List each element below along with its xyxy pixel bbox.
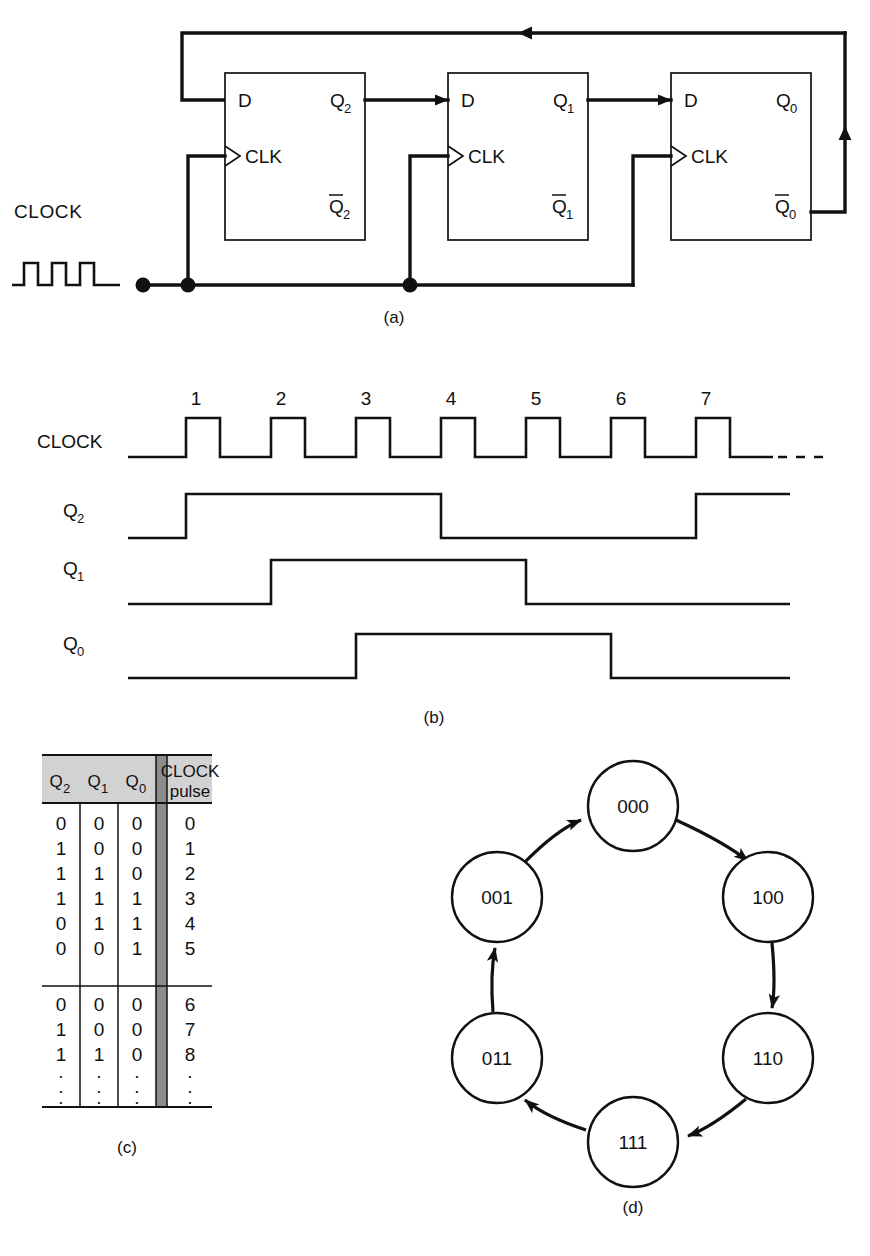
transition-110-to-111 (688, 1099, 746, 1136)
state-label-001: 001 (481, 887, 513, 908)
state-label-110: 110 (753, 1048, 783, 1069)
table-column-separator (156, 755, 167, 1107)
ff3-q-sub: 0 (790, 101, 797, 116)
table-header-q0: Q (125, 772, 138, 791)
timing-label-q2: Q (63, 500, 78, 521)
table-header-q2-sub: 2 (63, 781, 70, 796)
ff1-qbar-label: Q (329, 196, 344, 217)
cell-q2: 0 (56, 994, 67, 1015)
transition-111-to-011 (525, 1100, 586, 1130)
cell-q1: 0 (94, 813, 105, 834)
cell-pulse: 0 (185, 813, 196, 834)
timing-label-q1-sub: 1 (77, 569, 84, 584)
pulse-number-5: 5 (531, 388, 542, 409)
timing-waveform-q0 (128, 634, 790, 678)
clock-junction-dot-1 (136, 278, 151, 293)
pulse-number-6: 6 (616, 388, 627, 409)
cell-q0: 1 (132, 913, 143, 934)
caption-a: (a) (384, 308, 405, 327)
pulse-number-3: 3 (361, 388, 372, 409)
pulse-number-4: 4 (446, 388, 457, 409)
state-label-011: 011 (482, 1048, 512, 1069)
panel-b-timing: CLOCK Q 2 Q 1 Q 0 1 2 3 4 5 6 7 (b) (37, 388, 832, 727)
timing-label-q2-sub: 2 (77, 511, 84, 526)
pulse-number-1: 1 (191, 388, 202, 409)
ff1-d-label: D (238, 90, 252, 111)
table-row-ellipsis-0: . . . . (58, 1061, 192, 1082)
cell-pulse: 7 (185, 1019, 196, 1040)
cell-pulse: 2 (185, 863, 196, 884)
timing-label-clock: CLOCK (37, 431, 103, 452)
table-row-g1-2: 1 1 0 2 (56, 863, 196, 884)
cell-q2: 1 (56, 863, 67, 884)
table-header-q1: Q (87, 772, 100, 791)
cell-q1: 1 (94, 888, 105, 909)
cell-pulse: 1 (185, 838, 196, 859)
table-row-ellipsis-1: . . . . (58, 1076, 192, 1097)
circuit-clock-waveform (12, 263, 120, 285)
cell-q1: 1 (94, 913, 105, 934)
cell-pulse: 3 (185, 888, 196, 909)
pulse-number-2: 2 (276, 388, 287, 409)
table-row-g2-1: 1 0 0 7 (56, 1019, 196, 1040)
timing-label-q1-group: Q 1 (63, 558, 84, 584)
cell-q1: 1 (94, 863, 105, 884)
table-header-q1-sub: 1 (101, 781, 108, 796)
clock-riser-ff2 (410, 156, 448, 285)
clock-riser-ff1 (188, 156, 225, 285)
timing-waveform-q1 (128, 560, 790, 604)
table-row-g1-1: 1 0 0 1 (56, 838, 196, 859)
panel-c-table: Q 2 Q 1 Q 0 CLOCK pulse 0 0 0 0 1 0 0 1 … (42, 755, 220, 1157)
cell-q2: 0 (56, 913, 67, 934)
timing-label-q1: Q (63, 558, 78, 579)
circuit-clock-label: CLOCK (14, 201, 82, 222)
ff3-clk-label: CLK (691, 146, 728, 167)
qbar0-feedback-riser (811, 33, 845, 212)
feedback-arrow-left-icon (518, 27, 532, 40)
ff3-qbar-label: Q (775, 196, 790, 217)
ff2-qbar-label: Q (552, 196, 567, 217)
cell-q2: 0 (56, 938, 67, 959)
ff1-q-label: Q (330, 90, 345, 111)
table-row-g1-4: 0 1 1 4 (56, 913, 196, 934)
transition-100-to-110 (772, 943, 774, 1008)
cell-q0: 1 (132, 938, 143, 959)
cell-q2: . (58, 1087, 63, 1108)
state-label-000: 000 (617, 796, 649, 817)
caption-c: (c) (117, 1138, 137, 1157)
cell-pulse: . (187, 1087, 192, 1108)
transition-000-to-100 (676, 820, 748, 861)
caption-d: (d) (623, 1198, 644, 1217)
table-row-g1-5: 0 0 1 5 (56, 938, 196, 959)
cell-q0: 0 (132, 838, 143, 859)
ff1-q-sub: 2 (344, 101, 351, 116)
figure-root: D Q 2 CLK Q 2 D Q 1 CLK Q 1 D Q 0 (0, 0, 870, 1256)
cell-pulse: 6 (185, 994, 196, 1015)
transition-011-to-001 (492, 948, 495, 1012)
cell-q1: 0 (94, 1019, 105, 1040)
cell-q0: 1 (132, 888, 143, 909)
table-header-q0-sub: 0 (139, 781, 146, 796)
ff2-qbar-sub: 1 (566, 207, 573, 222)
caption-b: (b) (424, 708, 445, 727)
transition-001-to-000 (522, 820, 581, 865)
cell-q2: 1 (56, 1019, 67, 1040)
state-label-111: 111 (619, 1132, 648, 1153)
cell-q0: . (134, 1087, 139, 1108)
table-row-g1-3: 1 1 1 3 (56, 888, 196, 909)
ff1-clk-label: CLK (245, 146, 282, 167)
cell-pulse: 4 (185, 913, 196, 934)
cell-q2: 0 (56, 813, 67, 834)
table-header-pulse: pulse (170, 782, 211, 801)
cell-pulse: 5 (185, 938, 196, 959)
ff2-clk-label: CLK (468, 146, 505, 167)
cell-q1: 0 (94, 994, 105, 1015)
ff2-q-label: Q (553, 90, 568, 111)
table-row-g1-0: 0 0 0 0 (56, 813, 196, 834)
feedback-arrow-up-icon (839, 126, 852, 140)
table-header-clock: CLOCK (161, 762, 220, 781)
timing-waveform-clock (128, 418, 773, 457)
cell-q0: 0 (132, 1019, 143, 1040)
panel-d-state-diagram: 000 100 110 111 011 001 (d) (452, 761, 813, 1217)
timing-label-q2-group: Q 2 (63, 500, 84, 526)
